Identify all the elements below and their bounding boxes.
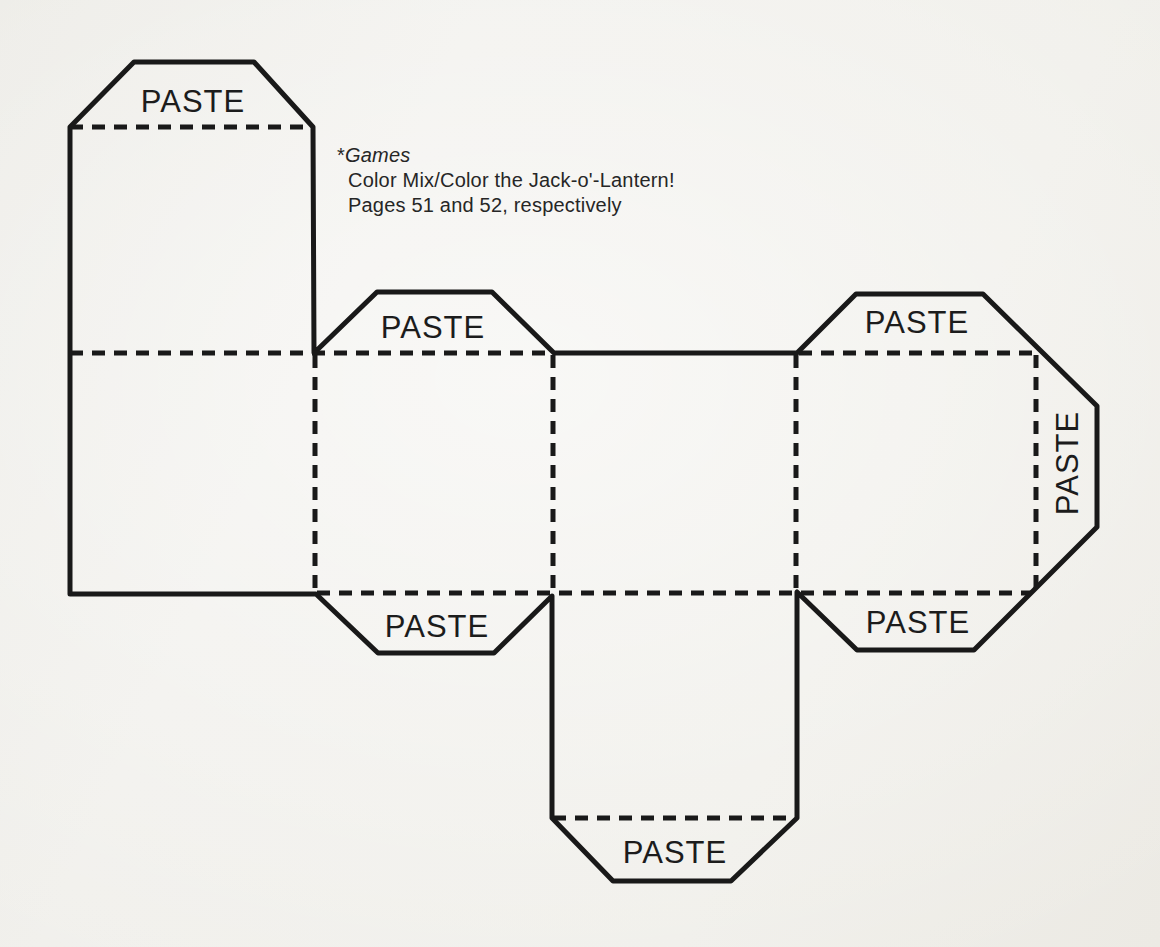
- paste-label-face2-top-tab: PASTE: [381, 310, 485, 345]
- paste-label-face4-top-tab: PASTE: [865, 305, 969, 340]
- paste-label-bottom-flap-tab: PASTE: [623, 835, 727, 870]
- paste-label-face4-right-tab: PASTE: [1050, 411, 1085, 515]
- caption-title-row: *Games: [337, 143, 675, 168]
- caption-line-games: Color Mix/Color the Jack-o'-Lantern!: [337, 168, 675, 193]
- caption-asterisk: *: [337, 143, 345, 168]
- scanned-page: PASTE PASTE PASTE PASTE PASTE PASTE PAST…: [0, 0, 1160, 947]
- paste-label-face4-bottom-tab: PASTE: [866, 605, 970, 640]
- caption: *Games Color Mix/Color the Jack-o'-Lante…: [337, 143, 675, 218]
- caption-line-pages: Pages 51 and 52, respectively: [337, 193, 675, 218]
- paste-label-face2-bottom-tab: PASTE: [385, 609, 489, 644]
- paste-label-lid-top-tab: PASTE: [141, 84, 245, 119]
- caption-book-title: Games: [345, 144, 410, 166]
